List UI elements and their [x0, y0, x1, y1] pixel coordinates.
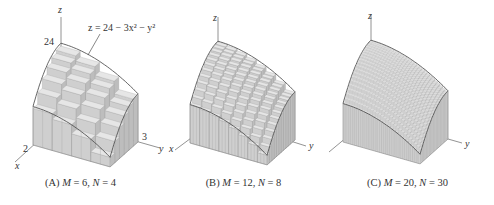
solid-c	[329, 14, 462, 164]
caption-c: (C) M = 20, N = 30	[325, 177, 490, 188]
z-axis-label: z	[213, 12, 217, 23]
z-tick-24: 24	[44, 36, 54, 47]
caption-a: (A) M = 6, N = 4	[0, 177, 163, 188]
caption-b: (B) M = 12, N = 8	[161, 177, 326, 188]
y-axis-label: y	[465, 138, 469, 149]
equation-leader-line	[88, 34, 100, 55]
x-axis-label: x	[15, 160, 19, 171]
panel-c: z y (C) M = 20, N = 30	[329, 0, 494, 205]
panel-b: z x y (B) M = 12, N = 8	[163, 0, 328, 205]
x-tick-2: 2	[23, 143, 28, 154]
solid-b	[175, 17, 306, 165]
y-tick-3: 3	[142, 131, 147, 142]
z-axis-label: z	[58, 4, 62, 15]
z-axis-label: z	[368, 10, 372, 21]
surface-equation: z = 24 − 3x² − y²	[88, 22, 155, 33]
solid-a	[15, 17, 160, 167]
x-axis-label: x	[169, 143, 173, 154]
panel-a: z 24 z = 24 − 3x² − y² 2 x 3 y (A) M = 6…	[0, 0, 165, 205]
y-axis-label: y	[309, 140, 313, 151]
riemann-sum-plot-c	[329, 0, 494, 205]
riemann-sum-plot-b	[163, 0, 328, 205]
